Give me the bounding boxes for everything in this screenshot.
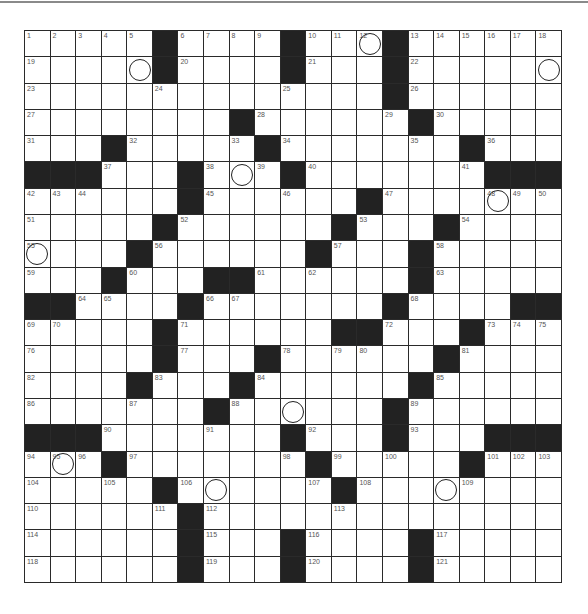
grid-cell[interactable] — [511, 268, 536, 293]
grid-cell[interactable]: 45 — [204, 189, 229, 214]
grid-cell[interactable]: 36 — [485, 136, 510, 161]
grid-cell[interactable] — [460, 399, 485, 424]
grid-cell[interactable] — [511, 399, 536, 424]
grid-cell[interactable]: 46 — [281, 189, 306, 214]
grid-cell[interactable] — [178, 84, 203, 109]
grid-cell[interactable]: 98 — [281, 452, 306, 477]
grid-cell[interactable]: 34 — [281, 136, 306, 161]
grid-cell[interactable] — [357, 241, 382, 266]
grid-cell[interactable]: 23 — [25, 84, 50, 109]
grid-cell[interactable] — [204, 346, 229, 371]
grid-cell[interactable] — [230, 530, 255, 555]
grid-cell[interactable]: 30 — [434, 110, 459, 135]
grid-cell[interactable] — [357, 399, 382, 424]
grid-cell[interactable]: 29 — [383, 110, 408, 135]
grid-cell[interactable] — [306, 399, 331, 424]
grid-cell[interactable] — [460, 241, 485, 266]
grid-cell[interactable] — [383, 373, 408, 398]
grid-cell[interactable]: 114 — [25, 530, 50, 555]
grid-cell[interactable] — [51, 215, 76, 240]
grid-cell[interactable] — [127, 110, 152, 135]
grid-cell[interactable] — [204, 215, 229, 240]
grid-cell[interactable] — [460, 425, 485, 450]
grid-cell[interactable] — [76, 373, 101, 398]
grid-cell[interactable]: 99 — [332, 452, 357, 477]
grid-cell[interactable] — [460, 110, 485, 135]
grid-cell[interactable]: 57 — [332, 241, 357, 266]
grid-cell[interactable]: 103 — [536, 452, 561, 477]
grid-cell[interactable]: 88 — [230, 399, 255, 424]
grid-cell[interactable] — [536, 241, 561, 266]
grid-cell[interactable] — [383, 346, 408, 371]
grid-cell[interactable]: 19 — [25, 57, 50, 82]
grid-cell[interactable] — [383, 530, 408, 555]
grid-cell[interactable] — [51, 110, 76, 135]
grid-cell[interactable] — [536, 268, 561, 293]
grid-cell[interactable] — [536, 530, 561, 555]
grid-cell[interactable] — [230, 215, 255, 240]
grid-cell[interactable] — [434, 478, 459, 503]
grid-cell[interactable]: 92 — [306, 425, 331, 450]
grid-cell[interactable]: 40 — [306, 162, 331, 187]
grid-cell[interactable]: 77 — [178, 346, 203, 371]
grid-cell[interactable]: 35 — [409, 136, 434, 161]
grid-cell[interactable] — [255, 425, 280, 450]
grid-cell[interactable] — [434, 84, 459, 109]
grid-cell[interactable] — [409, 504, 434, 529]
grid-cell[interactable] — [255, 241, 280, 266]
grid-cell[interactable] — [204, 136, 229, 161]
grid-cell[interactable] — [485, 84, 510, 109]
grid-cell[interactable] — [511, 346, 536, 371]
grid-cell[interactable] — [230, 425, 255, 450]
grid-cell[interactable] — [153, 530, 178, 555]
grid-cell[interactable] — [485, 557, 510, 582]
grid-cell[interactable] — [76, 57, 101, 82]
grid-cell[interactable]: 8 — [230, 31, 255, 56]
grid-cell[interactable] — [409, 215, 434, 240]
grid-cell[interactable] — [434, 136, 459, 161]
grid-cell[interactable]: 93 — [409, 425, 434, 450]
grid-cell[interactable] — [332, 136, 357, 161]
grid-cell[interactable]: 5 — [127, 31, 152, 56]
grid-cell[interactable]: 11 — [332, 31, 357, 56]
grid-cell[interactable]: 51 — [25, 215, 50, 240]
grid-cell[interactable]: 67 — [230, 294, 255, 319]
grid-cell[interactable]: 73 — [485, 320, 510, 345]
grid-cell[interactable] — [230, 478, 255, 503]
grid-cell[interactable] — [51, 57, 76, 82]
grid-cell[interactable]: 20 — [178, 57, 203, 82]
grid-cell[interactable]: 13 — [409, 31, 434, 56]
grid-cell[interactable] — [102, 57, 127, 82]
grid-cell[interactable] — [460, 557, 485, 582]
grid-cell[interactable]: 42 — [25, 189, 50, 214]
grid-cell[interactable] — [76, 320, 101, 345]
grid-cell[interactable]: 7 — [204, 31, 229, 56]
grid-cell[interactable] — [332, 530, 357, 555]
grid-cell[interactable] — [306, 110, 331, 135]
grid-cell[interactable] — [306, 346, 331, 371]
grid-cell[interactable] — [127, 294, 152, 319]
grid-cell[interactable] — [281, 110, 306, 135]
grid-cell[interactable]: 120 — [306, 557, 331, 582]
grid-cell[interactable]: 87 — [127, 399, 152, 424]
grid-cell[interactable]: 41 — [460, 162, 485, 187]
grid-cell[interactable] — [178, 110, 203, 135]
grid-cell[interactable] — [153, 189, 178, 214]
grid-cell[interactable] — [281, 268, 306, 293]
grid-cell[interactable] — [76, 215, 101, 240]
grid-cell[interactable] — [409, 346, 434, 371]
grid-cell[interactable] — [281, 504, 306, 529]
grid-cell[interactable]: 22 — [409, 57, 434, 82]
grid-cell[interactable] — [51, 478, 76, 503]
grid-cell[interactable] — [460, 373, 485, 398]
grid-cell[interactable] — [178, 268, 203, 293]
grid-cell[interactable] — [255, 557, 280, 582]
grid-cell[interactable]: 60 — [127, 268, 152, 293]
grid-cell[interactable]: 118 — [25, 557, 50, 582]
grid-cell[interactable] — [460, 268, 485, 293]
grid-cell[interactable]: 96 — [76, 452, 101, 477]
grid-cell[interactable] — [127, 346, 152, 371]
grid-cell[interactable] — [485, 346, 510, 371]
grid-cell[interactable]: 6 — [178, 31, 203, 56]
grid-cell[interactable] — [204, 241, 229, 266]
